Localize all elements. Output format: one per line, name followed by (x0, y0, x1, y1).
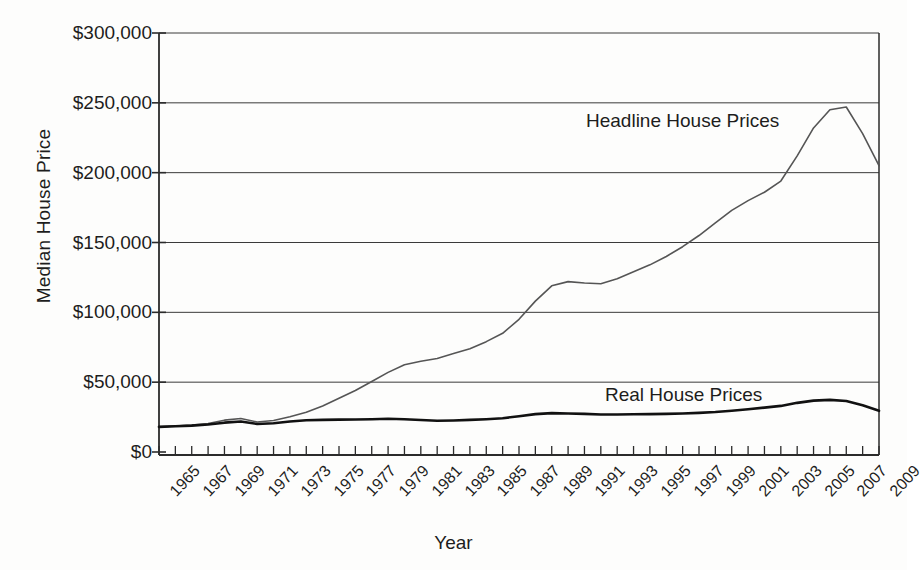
series-label-headline: Headline House Prices (586, 110, 779, 132)
axis-lines (159, 33, 879, 455)
x-axis-title: Year (0, 532, 907, 554)
x-axis-tick-marks (159, 446, 879, 455)
series-lines (159, 107, 879, 427)
series-label-real: Real House Prices (605, 384, 762, 406)
gridlines (159, 33, 879, 382)
